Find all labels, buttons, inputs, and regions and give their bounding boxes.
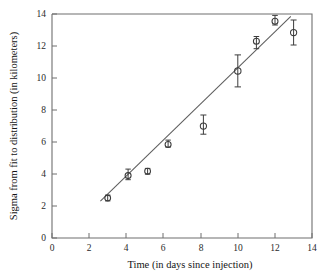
x-tick-label: 10 bbox=[233, 243, 243, 253]
x-tick-marks bbox=[52, 233, 312, 238]
y-tick-label: 12 bbox=[37, 41, 47, 51]
data-point bbox=[165, 140, 171, 147]
x-tick-label: 2 bbox=[87, 243, 92, 253]
data-series bbox=[105, 15, 297, 201]
x-tick-label: 8 bbox=[199, 243, 204, 253]
data-point bbox=[125, 169, 131, 180]
x-tick-labels: 0 2 4 6 8 10 12 14 bbox=[50, 243, 317, 253]
axes-box bbox=[52, 14, 312, 238]
x-tick-label: 0 bbox=[50, 243, 55, 253]
data-point bbox=[145, 168, 151, 174]
y-tick-label: 10 bbox=[37, 73, 47, 83]
y-axis-title: Sigma from fit to distribution (in kilom… bbox=[8, 31, 20, 220]
x-tick-label: 14 bbox=[307, 243, 317, 253]
y-tick-label: 14 bbox=[37, 9, 47, 19]
fit-line bbox=[100, 16, 290, 201]
chart-figure: 0 2 4 6 8 10 12 14 0 2 4 6 8 10 12 14 Ti… bbox=[0, 0, 330, 277]
x-tick-label: 6 bbox=[161, 243, 166, 253]
y-tick-label: 0 bbox=[41, 233, 46, 243]
data-point bbox=[253, 37, 259, 49]
y-tick-labels: 0 2 4 6 8 10 12 14 bbox=[37, 9, 47, 243]
y-tick-label: 2 bbox=[41, 201, 46, 211]
scatter-plot-svg: 0 2 4 6 8 10 12 14 0 2 4 6 8 10 12 14 Ti… bbox=[0, 0, 330, 277]
y-tick-marks bbox=[52, 14, 57, 238]
y-tick-label: 4 bbox=[41, 169, 46, 179]
x-tick-label: 12 bbox=[270, 243, 280, 253]
data-point bbox=[200, 115, 206, 134]
data-point bbox=[235, 55, 241, 87]
data-point bbox=[291, 20, 297, 45]
x-axis-title: Time (in days since injection) bbox=[127, 259, 253, 271]
y-tick-label: 6 bbox=[41, 137, 46, 147]
data-point bbox=[105, 195, 111, 201]
plot-frame bbox=[52, 14, 312, 238]
y-tick-label: 8 bbox=[41, 105, 46, 115]
x-tick-label: 4 bbox=[124, 243, 129, 253]
data-point bbox=[272, 15, 278, 25]
